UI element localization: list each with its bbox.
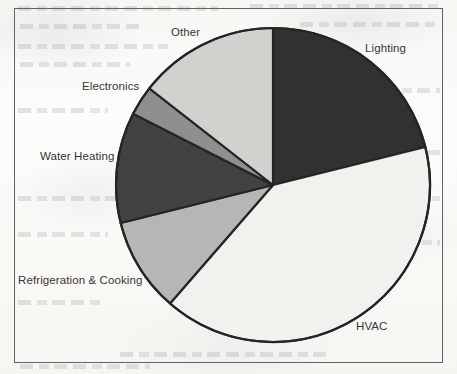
- chart-page: Other Lighting Electronics Water Heating…: [0, 0, 457, 374]
- pie-chart: [0, 0, 457, 374]
- pie-label-lighting: Lighting: [365, 42, 406, 55]
- pie-slice-group: [116, 28, 430, 342]
- pie-label-electronics: Electronics: [82, 80, 139, 93]
- pie-label-hvac: HVAC: [356, 320, 388, 333]
- pie-label-other: Other: [171, 26, 200, 39]
- pie-svg: [0, 0, 457, 374]
- pie-label-water-heating: Water Heating: [40, 150, 114, 163]
- pie-label-refrigeration-cooking: Refrigeration & Cooking: [18, 274, 142, 287]
